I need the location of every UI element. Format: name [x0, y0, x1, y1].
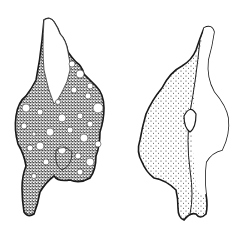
- specimen-illustration: [0, 0, 244, 242]
- left-specimen: [15, 18, 104, 215]
- right-specimen: [138, 27, 228, 220]
